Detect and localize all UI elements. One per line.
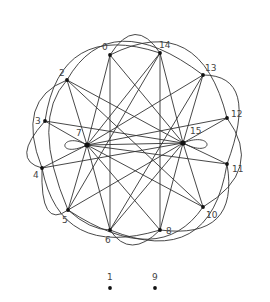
labels: 0141321237151141058619 (33, 40, 243, 282)
graph-node-10 (201, 205, 205, 209)
graph-node-1 (108, 286, 112, 290)
node-label-9: 9 (152, 272, 158, 282)
node-label-0: 0 (102, 42, 108, 52)
graph-node-12 (225, 116, 229, 120)
node-label-13: 13 (205, 63, 216, 73)
node-label-2: 2 (59, 68, 65, 78)
graph-node-3 (43, 119, 47, 123)
graph-node-2 (65, 78, 69, 82)
graph-node-6 (108, 228, 112, 232)
graph-node-15 (180, 140, 185, 145)
node-label-7: 7 (76, 128, 82, 138)
graph-node-13 (201, 73, 205, 77)
graph-node-5 (66, 208, 70, 212)
directed-graph-diagram: 0141321237151141058619 (0, 0, 270, 302)
node-label-4: 4 (33, 170, 39, 180)
graph-node-4 (40, 166, 44, 170)
node-label-12: 12 (231, 109, 242, 119)
graph-node-14 (158, 51, 162, 55)
node-label-10: 10 (206, 210, 218, 220)
node-label-15: 15 (190, 126, 201, 136)
graph-node-8 (158, 228, 162, 232)
node-label-8: 8 (166, 226, 172, 236)
graph-node-7 (84, 142, 89, 147)
node-label-14: 14 (159, 40, 171, 50)
node-label-5: 5 (62, 215, 68, 225)
graph-node-9 (153, 286, 157, 290)
node-label-3: 3 (35, 116, 41, 126)
node-label-1: 1 (107, 272, 113, 282)
node-label-6: 6 (105, 235, 111, 245)
graph-node-11 (225, 162, 229, 166)
node-label-11: 11 (232, 164, 243, 174)
graph-node-0 (108, 53, 112, 57)
